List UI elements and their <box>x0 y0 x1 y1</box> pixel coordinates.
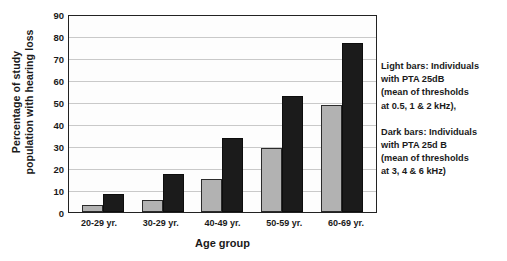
legend-dark-line-3: (mean of thresholds <box>381 152 505 165</box>
legend-dark-line-1: Dark bars: Individuals <box>381 126 505 139</box>
y-tick-10: 10 <box>42 187 64 196</box>
y-tick-40: 40 <box>42 121 64 130</box>
x-tick-1: 30-29 yr. <box>132 218 190 228</box>
bar-light-4 <box>321 105 342 212</box>
y-axis-title-line-1: Percentage of study <box>10 2 23 202</box>
legend-light-line-4: at 0.5, 1 & 2 kHz), <box>381 100 505 113</box>
x-axis-tick-labels: 20-29 yr. 30-29 yr. 40-49 yr. 50-59 yr. … <box>68 218 377 232</box>
bar-dark-0 <box>103 194 124 213</box>
legend-light-line-1: Light bars: Individuals <box>381 60 505 73</box>
y-axis-title-line-2: population with hearing loss <box>23 2 36 202</box>
bar-group-0 <box>82 16 124 212</box>
y-tick-0: 0 <box>42 209 64 218</box>
bar-light-0 <box>82 205 103 212</box>
y-tick-20: 20 <box>42 165 64 174</box>
bar-dark-1 <box>163 174 184 212</box>
y-tick-30: 30 <box>42 143 64 152</box>
legend-dark-line-2: with PTA 25d B <box>381 139 505 152</box>
x-axis-title: Age group <box>68 237 377 249</box>
bar-dark-3 <box>282 96 303 213</box>
bar-chart-figure: Percentage of study population with hear… <box>0 0 507 261</box>
y-tick-50: 50 <box>42 99 64 108</box>
y-tick-60: 60 <box>42 77 64 86</box>
legend: Light bars: Individuals with PTA 25dB (m… <box>381 60 505 192</box>
bar-group-1 <box>142 16 184 212</box>
y-axis-tick-labels: 90 80 70 60 50 40 30 20 10 0 <box>40 0 64 261</box>
legend-block-dark-bars: Dark bars: Individuals with PTA 25d B (m… <box>381 126 505 179</box>
plot-area <box>68 15 377 213</box>
x-tick-0: 20-29 yr. <box>70 218 128 228</box>
bar-group-2 <box>201 16 243 212</box>
y-tick-80: 80 <box>42 33 64 42</box>
bar-light-3 <box>261 148 282 212</box>
y-tick-90: 90 <box>42 11 64 20</box>
legend-light-line-3: (mean of thresholds <box>381 86 505 99</box>
bar-light-2 <box>201 179 222 212</box>
y-tick-70: 70 <box>42 55 64 64</box>
legend-block-light-bars: Light bars: Individuals with PTA 25dB (m… <box>381 60 505 113</box>
bar-dark-4 <box>342 43 363 212</box>
legend-light-line-2: with PTA 25dB <box>381 73 505 86</box>
bar-dark-2 <box>222 138 243 212</box>
x-tick-4: 60-69 yr. <box>317 218 375 228</box>
legend-dark-line-4: at 3, 4 & 6 kHz) <box>381 165 505 178</box>
x-tick-3: 50-59 yr. <box>255 218 313 228</box>
x-tick-2: 40-49 yr. <box>193 218 251 228</box>
bar-group-4 <box>321 16 363 212</box>
bar-series-container <box>69 16 376 212</box>
bar-light-1 <box>142 200 163 212</box>
bar-group-3 <box>261 16 303 212</box>
